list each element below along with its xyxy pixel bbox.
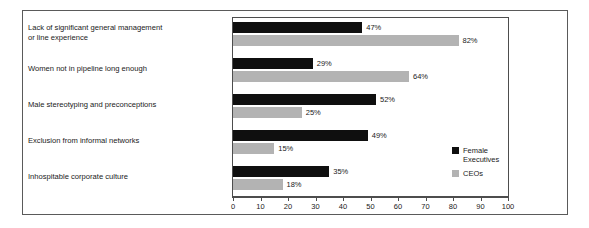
bar-ceos bbox=[233, 35, 459, 46]
bar-value-label: 15% bbox=[278, 143, 293, 154]
x-axis-tick-label: 80 bbox=[449, 202, 457, 211]
bar-value-label: 29% bbox=[317, 58, 332, 69]
category-label: Women not in pipeline long enough bbox=[28, 64, 228, 74]
bar-value-label: 35% bbox=[333, 166, 348, 177]
category-label: Exclusion from informal networks bbox=[28, 136, 228, 146]
legend-swatch-icon bbox=[452, 147, 459, 154]
bar-female-executives bbox=[233, 130, 368, 141]
legend-label: Female Executives bbox=[463, 146, 499, 164]
bar-ceos bbox=[233, 143, 274, 154]
category-label: Inhospitable corporate culture bbox=[28, 172, 228, 182]
legend-swatch-icon bbox=[452, 170, 459, 177]
x-axis-tick-label: 100 bbox=[502, 202, 515, 211]
bar-value-label: 82% bbox=[463, 35, 478, 46]
x-axis-tick bbox=[343, 197, 344, 201]
bar-female-executives bbox=[233, 58, 313, 69]
legend-item: CEOs bbox=[452, 169, 508, 178]
x-axis-tick-label: 30 bbox=[311, 202, 319, 211]
legend-item: Female Executives bbox=[452, 146, 508, 164]
x-axis-tick-label: 0 bbox=[231, 202, 235, 211]
bar-value-label: 25% bbox=[306, 107, 321, 118]
x-axis-tick bbox=[233, 197, 234, 201]
chart-figure: Lack of significant general management o… bbox=[0, 0, 589, 228]
category-axis-labels: Lack of significant general management o… bbox=[28, 17, 228, 197]
x-axis-tick-label: 50 bbox=[366, 202, 374, 211]
x-axis-tick-label: 20 bbox=[284, 202, 292, 211]
x-axis-tick bbox=[508, 197, 509, 201]
bar-ceos bbox=[233, 179, 283, 190]
x-axis-tick bbox=[261, 197, 262, 201]
bar-ceos bbox=[233, 71, 409, 82]
x-axis: 0102030405060708090100 bbox=[232, 197, 509, 217]
x-axis-tick-label: 90 bbox=[476, 202, 484, 211]
x-axis-tick bbox=[371, 197, 372, 201]
x-axis-tick-label: 60 bbox=[394, 202, 402, 211]
x-axis-tick bbox=[453, 197, 454, 201]
bar-female-executives bbox=[233, 22, 362, 33]
bar-value-label: 49% bbox=[372, 130, 387, 141]
x-axis-tick bbox=[481, 197, 482, 201]
x-axis-tick-label: 40 bbox=[339, 202, 347, 211]
bar-female-executives bbox=[233, 94, 376, 105]
category-label: Lack of significant general management o… bbox=[28, 23, 228, 43]
bar-value-label: 52% bbox=[380, 94, 395, 105]
bar-female-executives bbox=[233, 166, 329, 177]
chart-legend: Female ExecutivesCEOs bbox=[452, 146, 508, 183]
bar-ceos bbox=[233, 107, 302, 118]
x-axis-tick bbox=[426, 197, 427, 201]
x-axis-tick-label: 70 bbox=[421, 202, 429, 211]
legend-label: CEOs bbox=[463, 169, 483, 178]
x-axis-tick bbox=[288, 197, 289, 201]
bar-value-label: 64% bbox=[413, 71, 428, 82]
bar-value-label: 47% bbox=[366, 22, 381, 33]
bar-value-label: 18% bbox=[287, 179, 302, 190]
x-axis-tick bbox=[398, 197, 399, 201]
x-axis-tick bbox=[316, 197, 317, 201]
x-axis-tick-label: 10 bbox=[256, 202, 264, 211]
category-label: Male stereotyping and preconceptions bbox=[28, 100, 228, 110]
